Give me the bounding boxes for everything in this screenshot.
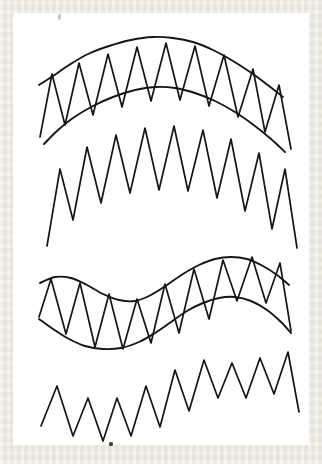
paper-sheet — [13, 13, 309, 445]
figure-3-zigzag — [39, 257, 291, 349]
scan-speck-top — [58, 14, 61, 20]
scan-speck-bottom — [109, 442, 113, 446]
figure-3-lower-s-curve — [39, 297, 291, 349]
figure-2-zigzag — [47, 126, 297, 248]
figure-series-group — [39, 37, 299, 441]
line-art-figure — [13, 13, 309, 445]
scanned-page-background — [0, 0, 322, 464]
figure-4-zigzag — [41, 352, 299, 441]
figure-1-inner-arc — [44, 87, 285, 152]
